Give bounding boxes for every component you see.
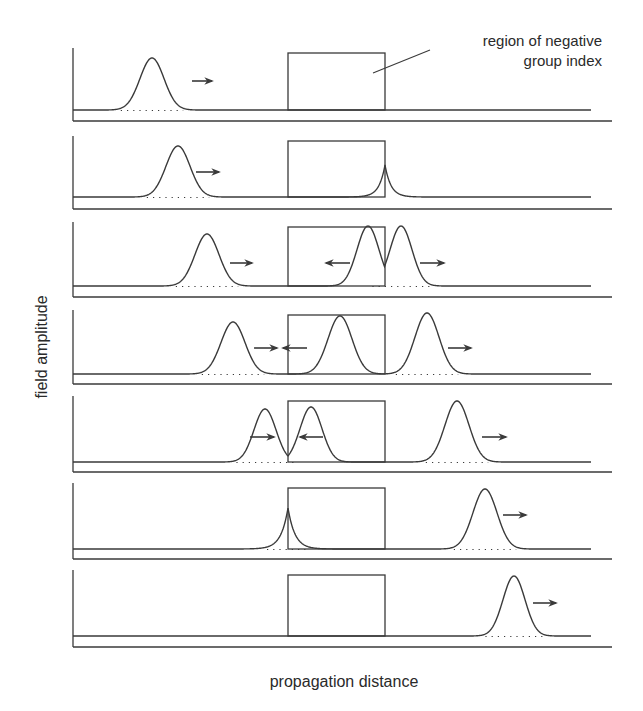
negative-index-region-box	[288, 488, 385, 549]
x-axis-label: propagation distance	[270, 673, 419, 690]
field-amplitude-curve	[73, 489, 591, 549]
panel-6	[73, 483, 612, 559]
field-amplitude-curve	[73, 401, 591, 462]
panel-3	[73, 222, 612, 297]
annotation-line-2: group index	[524, 52, 603, 69]
field-amplitude-curve	[73, 226, 591, 286]
y-axis-label: field amplitude	[33, 295, 50, 398]
negative-index-region-box	[288, 401, 385, 462]
negative-index-region-box	[288, 315, 385, 374]
panels-group	[73, 48, 612, 647]
negative-index-region-box	[288, 53, 385, 110]
negative-index-region-box	[288, 141, 385, 197]
field-amplitude-curve	[73, 576, 591, 636]
panel-4	[73, 310, 612, 384]
annotation-line-1: region of negative	[483, 32, 602, 49]
field-amplitude-curve	[73, 58, 591, 110]
field-amplitude-curve	[73, 146, 591, 197]
panel-2	[73, 136, 612, 209]
negative-index-region-box	[288, 575, 385, 636]
field-amplitude-curve	[73, 313, 591, 374]
region-annotation: region of negative group index	[373, 32, 602, 73]
pulse-propagation-diagram: region of negative group index field amp…	[0, 0, 643, 711]
panel-5	[73, 396, 612, 472]
negative-index-region-box	[288, 227, 385, 286]
panel-7	[73, 570, 612, 647]
